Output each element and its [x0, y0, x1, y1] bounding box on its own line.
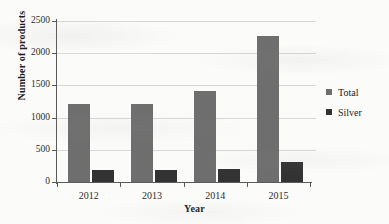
legend-swatch-icon [326, 89, 332, 95]
y-tick-mark [52, 118, 57, 119]
x-tick-label-2015: 2015 [252, 190, 304, 202]
y-tick-mark [52, 85, 57, 86]
legend-item-total: Total [326, 82, 362, 102]
y-tick-mark [52, 53, 57, 54]
y-tick-mark [52, 150, 57, 151]
x-tick-mark [184, 182, 185, 187]
chart-legend: TotalSilver [326, 82, 362, 122]
bar-total-2013 [131, 104, 153, 182]
x-tick-mark [57, 182, 58, 187]
y-tick-label: 0 [2, 177, 50, 187]
y-tick-mark [52, 182, 57, 183]
gridline [57, 21, 316, 22]
plot-area [57, 21, 310, 182]
legend-label: Total [338, 87, 358, 98]
x-tick-mark [310, 182, 311, 187]
bar-chart: 05001000150020002500 2012201320142015 Ye… [0, 0, 389, 224]
bar-silver-2015 [281, 162, 303, 182]
x-axis-title: Year [0, 203, 389, 214]
x-tick-label-2013: 2013 [126, 190, 178, 202]
bar-total-2012 [68, 104, 90, 182]
y-tick-mark [52, 21, 57, 22]
bar-silver-2012 [92, 170, 114, 182]
x-tick-mark [247, 182, 248, 187]
bar-silver-2014 [218, 169, 240, 182]
y-axis-title: Number of products [16, 0, 27, 121]
y-tick-label: 500 [2, 145, 50, 155]
bar-total-2015 [257, 36, 279, 182]
legend-label: Silver [338, 107, 362, 118]
x-tick-mark [120, 182, 121, 187]
x-tick-label-2012: 2012 [63, 190, 115, 202]
legend-item-silver: Silver [326, 102, 362, 122]
x-tick-label-2014: 2014 [189, 190, 241, 202]
bar-total-2014 [194, 91, 216, 182]
bar-silver-2013 [155, 170, 177, 182]
legend-swatch-icon [326, 109, 332, 115]
